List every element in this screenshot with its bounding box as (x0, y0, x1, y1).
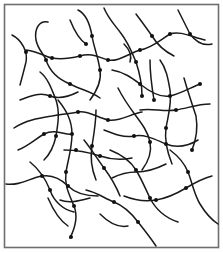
polymer-chain (178, 10, 212, 45)
crosslink-dot (164, 126, 168, 130)
crosslink-dot (48, 94, 52, 98)
crosslink-dot (102, 166, 106, 170)
crosslink-dot (112, 200, 116, 204)
crosslink-dot (70, 132, 74, 136)
crosslink-dot (76, 110, 80, 114)
crosslink-dot (148, 196, 152, 200)
polymer-network-diagram (0, 0, 223, 253)
crosslink-dot (140, 94, 144, 98)
crosslink-dot (98, 68, 102, 72)
polymer-chain (14, 112, 142, 128)
polymer-chain (12, 35, 26, 85)
crosslink-dot (174, 108, 178, 112)
crosslink-dot (42, 132, 46, 136)
polymer-chain (64, 150, 132, 159)
crosslink-dot (184, 186, 188, 190)
crosslink-dot (150, 34, 154, 38)
crosslink-dot (72, 204, 76, 208)
crosslink-dot (148, 140, 152, 144)
crosslink-dot (24, 50, 28, 54)
crosslink-dot (44, 58, 48, 62)
crosslink-dot (136, 220, 140, 224)
crosslink-dot (68, 82, 72, 86)
polymer-chain (110, 150, 178, 222)
crosslink-dot (188, 32, 192, 36)
crosslink-dot (40, 174, 44, 178)
crosslink-dot (190, 148, 194, 152)
polymer-chain (6, 176, 98, 196)
crosslink-dot (198, 82, 202, 86)
crosslink-dot (84, 42, 88, 46)
crosslink-nodes (24, 32, 202, 239)
crosslink-dot (154, 198, 158, 202)
crosslink-dot (164, 142, 168, 146)
crosslink-dot (138, 48, 142, 52)
polymer-chain (58, 100, 76, 238)
polymer-chain (70, 20, 86, 44)
polymer-chain (118, 88, 151, 170)
crosslink-dot (134, 168, 138, 172)
polymer-chain (160, 60, 172, 164)
crosslink-dot (132, 134, 136, 138)
crosslink-dot (64, 170, 68, 174)
crosslink-dot (168, 32, 172, 36)
crosslink-dot (168, 94, 172, 98)
crosslink-dot (186, 170, 190, 174)
crosslink-dot (48, 188, 52, 192)
crosslink-dot (106, 58, 110, 62)
crosslink-dot (90, 144, 94, 148)
crosslink-dot (98, 154, 102, 158)
polymer-chain (100, 214, 128, 226)
crosslink-dot (54, 134, 58, 138)
crosslink-dot (69, 235, 73, 239)
polymer-chain (60, 198, 90, 202)
polymer-chain (86, 190, 156, 246)
crosslink-dot (50, 56, 54, 60)
crosslink-dot (138, 82, 142, 86)
polymer-chain (112, 70, 200, 96)
polymer-chain (124, 176, 212, 201)
crosslink-dot (152, 98, 156, 102)
crosslink-dot (134, 60, 138, 64)
polymer-chain (170, 150, 218, 224)
chain-lines (6, 8, 218, 246)
crosslink-dot (74, 148, 78, 152)
crosslink-dot (90, 34, 94, 38)
crosslink-dot (78, 54, 82, 58)
polymer-chain (150, 60, 154, 100)
crosslink-dot (106, 118, 110, 122)
crosslink-dot (66, 184, 70, 188)
